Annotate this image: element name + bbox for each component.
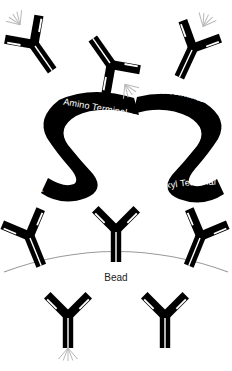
antibody-bead-center bbox=[92, 206, 140, 262]
antibody-top-right bbox=[158, 5, 231, 88]
bead-caption: Bead bbox=[104, 272, 127, 283]
antibody-bead-right bbox=[167, 205, 232, 275]
diagram-canvas: Amino Terminal Amino Terminal Carboxyl T… bbox=[0, 0, 232, 371]
antibody-bead-left bbox=[0, 205, 63, 275]
antibody-bottom-left bbox=[44, 292, 92, 361]
antibody-bottom-right bbox=[141, 292, 189, 348]
antibody-bead-diagram: Amino Terminal Amino Terminal Carboxyl T… bbox=[0, 0, 232, 371]
antibody-top-left bbox=[0, 0, 72, 84]
